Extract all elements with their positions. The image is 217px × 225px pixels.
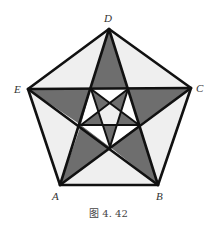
- pentagon-star-diagram: [0, 0, 217, 225]
- vertex-label-d: D: [104, 13, 112, 24]
- figure-caption: 图 4. 42: [0, 205, 217, 220]
- vertex-label-b: B: [156, 191, 163, 202]
- diagonal-ce: [28, 88, 191, 89]
- vertex-label-a: A: [52, 191, 59, 202]
- vertex-label-c: C: [196, 83, 203, 94]
- vertex-label-e: E: [14, 84, 21, 95]
